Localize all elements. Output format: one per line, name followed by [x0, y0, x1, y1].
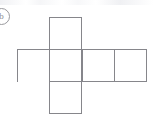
net-cell-middle-left-open: [17, 49, 50, 82]
net-cell-bottom: [49, 81, 82, 114]
net-cell-middle-right: [82, 49, 115, 82]
net-cell-middle-center: [49, 49, 82, 82]
net-cell-top: [49, 17, 82, 50]
net-cell-middle-far-right: [114, 49, 147, 82]
cube-net-diagram: [0, 0, 153, 123]
figure-canvas: b: [0, 0, 153, 123]
